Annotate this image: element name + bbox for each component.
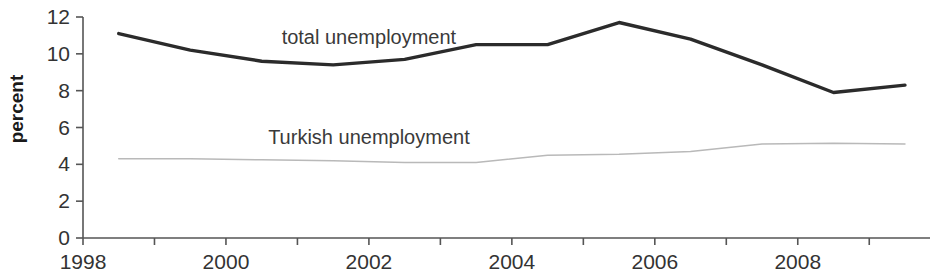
y-axis-tick-label: 2 bbox=[40, 190, 70, 211]
chart-series-lines bbox=[119, 23, 905, 163]
x-axis-tick-label: 2004 bbox=[467, 251, 557, 270]
x-axis-tick-label: 2006 bbox=[610, 251, 700, 270]
x-axis-tick-label: 1998 bbox=[38, 251, 128, 270]
y-axis-tick-label: 6 bbox=[40, 117, 70, 138]
y-axis-tick-label: 0 bbox=[40, 227, 70, 248]
y-axis-ticks bbox=[76, 17, 83, 238]
series-label-turkish-unemployment: Turkish unemployment bbox=[268, 127, 470, 147]
x-axis-ticks bbox=[83, 238, 869, 245]
y-axis-tick-label: 12 bbox=[40, 6, 70, 27]
x-axis-tick-label: 2000 bbox=[181, 251, 271, 270]
series-line-total-unemployment bbox=[119, 23, 905, 93]
unemployment-line-chart: percent 024681012 1998200020022004200620… bbox=[0, 0, 940, 270]
series-line-turkish-unemployment bbox=[119, 143, 905, 162]
y-axis-tick-label: 8 bbox=[40, 80, 70, 101]
y-axis-tick-label: 10 bbox=[40, 43, 70, 64]
x-axis-tick-label: 2002 bbox=[324, 251, 414, 270]
y-axis-tick-label: 4 bbox=[40, 153, 70, 174]
y-axis-title: percent bbox=[6, 64, 28, 154]
x-axis-tick-label: 2008 bbox=[753, 251, 843, 270]
series-label-total-unemployment: total unemployment bbox=[282, 27, 457, 47]
